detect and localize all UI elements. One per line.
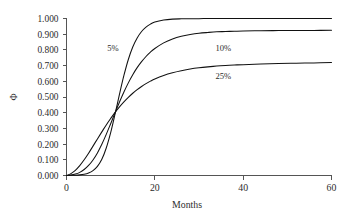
x-tick-label: 0	[64, 182, 69, 193]
y-tick-label: 0.600	[37, 77, 58, 87]
curve-label-10pct: 10%	[215, 43, 231, 53]
curve-label-5pct: 5%	[107, 43, 118, 53]
y-axis-tick-labels: 0.0000.1000.2000.3000.4000.5000.6000.700…	[37, 14, 58, 181]
x-tick-label: 40	[238, 182, 248, 193]
y-tick-label: 0.400	[37, 108, 58, 118]
y-tick-label: 0.300	[37, 124, 58, 134]
y-tick-label: 1.000	[37, 14, 58, 24]
y-tick-label: 0.500	[37, 92, 58, 102]
x-axis-title: Months	[172, 199, 202, 210]
chart-figure: 0.0000.1000.2000.3000.4000.5000.6000.700…	[0, 0, 341, 219]
x-tick-label: 60	[327, 182, 337, 193]
curve-label-25pct: 25%	[215, 71, 231, 81]
y-tick-label: 0.000	[37, 171, 58, 181]
y-tick-label: 0.700	[37, 61, 58, 71]
y-axis-title: Φ	[8, 93, 19, 100]
x-tick-label: 20	[150, 182, 160, 193]
y-tick-label: 0.800	[37, 45, 58, 55]
y-tick-label: 0.100	[37, 155, 58, 165]
chart-svg: 0.0000.1000.2000.3000.4000.5000.6000.700…	[0, 0, 341, 219]
y-tick-label: 0.200	[37, 140, 58, 150]
y-tick-label: 0.900	[37, 30, 58, 40]
